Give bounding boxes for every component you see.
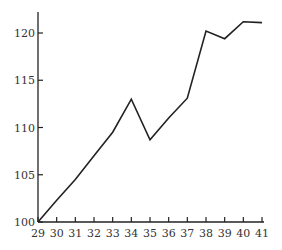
y-tick-label: 105 [14, 169, 35, 182]
y-tick-label: 115 [14, 74, 35, 87]
x-tick-label: 33 [106, 227, 120, 240]
data-line [38, 22, 262, 222]
x-tick-label: 41 [255, 227, 269, 240]
x-tick-label: 36 [162, 227, 176, 240]
x-tick-label: 39 [218, 227, 232, 240]
x-axis: 29303132333435363738394041 [31, 217, 269, 240]
line-chart: 100105110115120 293031323334353637383940… [0, 0, 282, 250]
x-tick-label: 31 [68, 227, 82, 240]
x-tick-label: 35 [143, 227, 157, 240]
x-tick-label: 38 [199, 227, 213, 240]
x-tick-label: 37 [180, 227, 194, 240]
x-tick-label: 34 [124, 227, 138, 240]
y-axis: 100105110115120 [14, 12, 43, 229]
x-tick-label: 29 [31, 227, 45, 240]
x-tick-label: 40 [236, 227, 250, 240]
x-tick-label: 30 [50, 227, 64, 240]
y-tick-label: 110 [14, 122, 35, 135]
x-tick-label: 32 [87, 227, 101, 240]
y-tick-label: 120 [14, 27, 35, 40]
